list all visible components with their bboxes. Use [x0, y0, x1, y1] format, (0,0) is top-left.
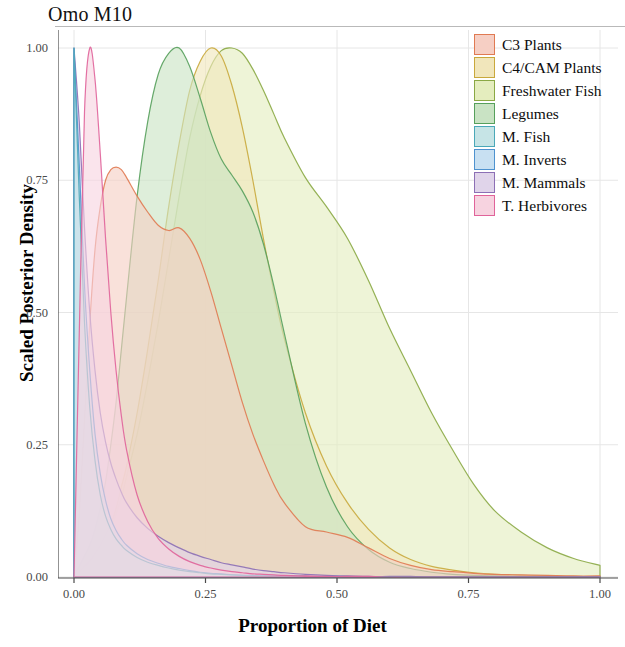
legend-swatch — [474, 80, 495, 101]
legend-item-freshwater-fish: Freshwater Fish — [474, 79, 624, 102]
y-tick-label: 0.25 — [6, 438, 48, 453]
y-tick-label: 0.00 — [6, 570, 48, 585]
y-tick-label: 0.50 — [6, 306, 48, 321]
legend-label: C3 Plants — [502, 37, 562, 53]
legend-item-m-mammals: M. Mammals — [474, 171, 624, 194]
y-tick-label: 1.00 — [6, 41, 48, 56]
legend-label: M. Mammals — [502, 175, 586, 191]
legend-item-m-fish: M. Fish — [474, 125, 624, 148]
x-tick-label: 0.25 — [176, 587, 236, 602]
legend-swatch — [474, 172, 495, 193]
legend-label: M. Inverts — [502, 152, 567, 168]
legend-swatch — [474, 126, 495, 147]
legend-item-legumes: Legumes — [474, 102, 624, 125]
legend-swatch — [474, 195, 495, 216]
y-tick-label: 0.75 — [6, 173, 48, 188]
figure-container: Omo M10 Scaled Posterior Density Proport… — [0, 0, 625, 647]
legend-label: T. Herbivores — [502, 198, 587, 214]
x-tick-label: 0.00 — [44, 587, 104, 602]
title-divider — [55, 26, 625, 27]
page-title: Omo M10 — [48, 3, 132, 26]
legend-label: M. Fish — [502, 129, 550, 145]
legend-label: C4/CAM Plants — [502, 60, 601, 76]
x-axis-title: Proportion of Diet — [0, 615, 625, 637]
legend-swatch — [474, 149, 495, 170]
legend-label: Legumes — [502, 106, 559, 122]
legend-item-c4-cam-plants: C4/CAM Plants — [474, 56, 624, 79]
legend-item-c3-plants: C3 Plants — [474, 33, 624, 56]
legend-item-m-inverts: M. Inverts — [474, 148, 624, 171]
legend-item-t-herbivores: T. Herbivores — [474, 194, 624, 217]
legend-swatch — [474, 103, 495, 124]
x-tick-label: 0.75 — [439, 587, 499, 602]
legend-swatch — [474, 57, 495, 78]
legend: C3 PlantsC4/CAM PlantsFreshwater FishLeg… — [474, 33, 624, 217]
legend-label: Freshwater Fish — [502, 83, 601, 99]
x-tick-label: 0.50 — [307, 587, 367, 602]
legend-swatch — [474, 34, 495, 55]
x-tick-label: 1.00 — [570, 587, 625, 602]
